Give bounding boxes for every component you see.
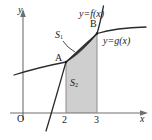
region-s2-label-subscript: 2	[75, 81, 78, 88]
region-s2-fill	[66, 34, 97, 114]
x-axis-label: x	[140, 114, 144, 124]
curve-g-label: y=g(x)	[103, 36, 130, 46]
x-tick-label-2: 2	[62, 115, 67, 125]
region-s1-label: S1	[55, 30, 63, 41]
math-figure: y x O 2 3 y=f(x) y=g(x) A B S1 S2	[0, 0, 152, 140]
point-b-marker	[96, 32, 98, 34]
point-b-label: B	[90, 19, 97, 29]
x-tick-label-3: 3	[94, 115, 99, 125]
region-s1-label-subscript: 1	[60, 33, 63, 40]
point-a-label: A	[55, 53, 62, 63]
origin-label: O	[17, 114, 24, 124]
region-s2-label: S2	[70, 78, 78, 89]
y-axis-label: y	[18, 5, 22, 15]
point-a-marker	[65, 61, 67, 63]
s1-leader-line	[63, 41, 75, 52]
